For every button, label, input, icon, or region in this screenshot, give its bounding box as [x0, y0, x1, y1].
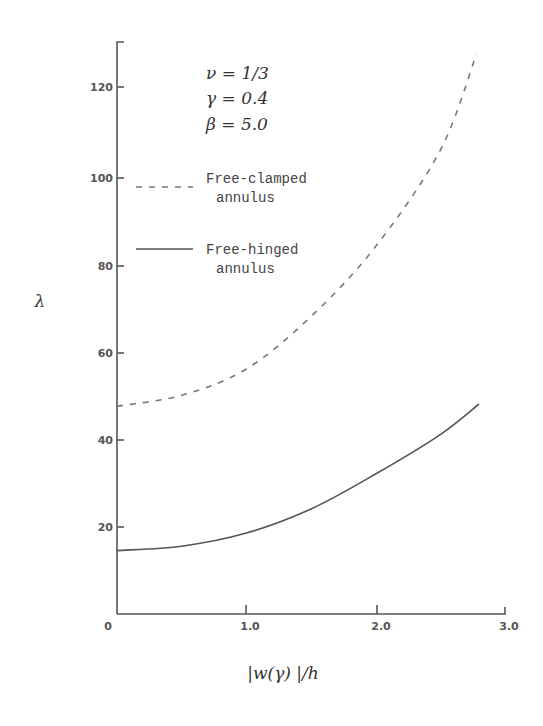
- y-axis-label: λ: [34, 291, 46, 311]
- legend-clamped-line2: annulus: [216, 190, 275, 206]
- chart: 20 40 60 80 100 120 0 1.0 2.0 3.0 λ |w(γ…: [0, 0, 543, 726]
- param-beta: β = 5.0: [205, 114, 268, 134]
- parameters: ν = 1/3 γ = 0.4 β = 5.0: [205, 63, 269, 134]
- curves: [117, 54, 479, 551]
- legend: Free-clamped annulus Free-hinged annulus: [136, 171, 307, 277]
- x-tick-labels: 0 1.0 2.0 3.0: [104, 620, 519, 633]
- legend-hinged-line2: annulus: [216, 261, 275, 277]
- x-axis: [117, 607, 505, 614]
- x-tick-2: 2.0: [371, 620, 391, 633]
- series-free-hinged: [117, 404, 479, 551]
- y-tick-labels: 20 40 60 80 100 120: [90, 81, 113, 534]
- y-tick-80: 80: [98, 260, 114, 273]
- y-tick-120: 120: [90, 81, 113, 94]
- y-tick-60: 60: [98, 347, 114, 360]
- param-nu: ν = 1/3: [206, 63, 269, 83]
- param-gamma: γ = 0.4: [206, 88, 268, 108]
- x-tick-3: 3.0: [499, 620, 519, 633]
- legend-hinged-line1: Free-hinged: [206, 242, 298, 258]
- y-tick-40: 40: [98, 434, 114, 447]
- y-tick-20: 20: [98, 521, 114, 534]
- y-tick-100: 100: [90, 172, 113, 185]
- x-tick-1: 1.0: [240, 620, 260, 633]
- axes: [117, 42, 505, 614]
- x-axis-label: |w(γ) |/h: [247, 663, 319, 683]
- legend-clamped-line1: Free-clamped: [206, 171, 307, 187]
- series-free-clamped: [117, 54, 477, 406]
- y-axis: [117, 42, 124, 614]
- x-tick-0: 0: [104, 620, 112, 633]
